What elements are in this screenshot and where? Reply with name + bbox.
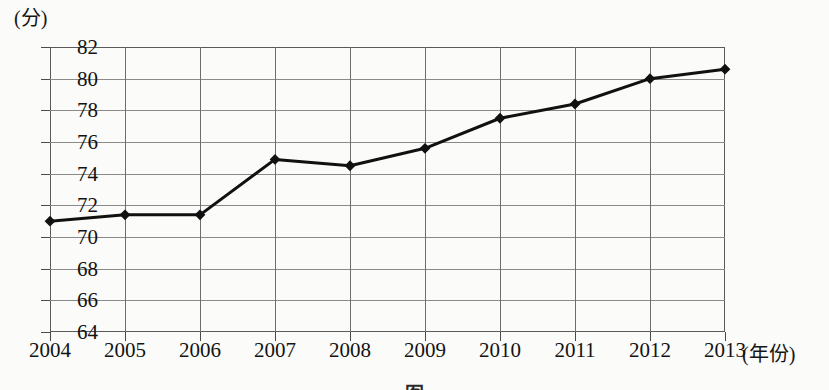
chart-figure: (分) 82807876747270686664 200420052006200…: [0, 0, 829, 390]
y-tick-label: 80: [77, 66, 98, 91]
series-line: [50, 69, 725, 221]
data-point-marker: [570, 99, 581, 110]
y-tick-label: 70: [77, 225, 98, 250]
x-tick-mark: [350, 332, 351, 341]
x-tick-label: 2009: [404, 338, 446, 363]
data-point-marker: [120, 209, 131, 220]
x-tick-label: 2005: [104, 338, 146, 363]
y-tick-mark: [41, 110, 50, 111]
line-series: [50, 47, 725, 332]
y-tick-label: 74: [77, 161, 98, 186]
figure-caption: 图: [0, 379, 829, 390]
y-tick-mark: [41, 269, 50, 270]
x-tick-mark: [275, 332, 276, 341]
y-tick-mark: [41, 237, 50, 238]
x-tick-label: 2013: [704, 338, 746, 363]
y-tick-label: 78: [77, 98, 98, 123]
y-tick-label: 76: [77, 130, 98, 155]
y-tick-label: 82: [77, 35, 98, 60]
x-tick-label: 2007: [254, 338, 296, 363]
x-tick-mark: [200, 332, 201, 341]
data-point-marker: [720, 64, 731, 75]
data-point-marker: [420, 143, 431, 154]
y-tick-label: 64: [77, 320, 98, 345]
y-tick-mark: [41, 300, 50, 301]
x-tick-mark: [50, 332, 51, 341]
x-axis-unit-label: (年份): [742, 338, 795, 367]
y-tick-label: 66: [77, 288, 98, 313]
x-tick-mark: [500, 332, 501, 341]
x-tick-label: 2012: [629, 338, 671, 363]
x-tick-mark: [425, 332, 426, 341]
y-axis-unit-label: (分): [14, 2, 47, 31]
data-point-marker: [345, 160, 356, 171]
y-tick-label: 72: [77, 193, 98, 218]
x-tick-mark: [725, 332, 726, 341]
y-tick-mark: [41, 205, 50, 206]
data-point-marker: [45, 216, 56, 227]
data-point-marker: [495, 113, 506, 124]
data-point-marker: [645, 73, 656, 84]
x-tick-label: 2006: [179, 338, 221, 363]
plot-area: [50, 47, 725, 332]
x-tick-label: 2008: [329, 338, 371, 363]
x-tick-mark: [650, 332, 651, 341]
x-tick-mark: [575, 332, 576, 341]
x-tick-label: 2010: [479, 338, 521, 363]
y-tick-mark: [41, 47, 50, 48]
y-tick-label: 68: [77, 256, 98, 281]
y-tick-mark: [41, 332, 50, 333]
y-tick-mark: [41, 174, 50, 175]
x-tick-label: 2011: [554, 338, 595, 363]
x-tick-mark: [125, 332, 126, 341]
y-tick-mark: [41, 79, 50, 80]
y-tick-mark: [41, 142, 50, 143]
x-tick-label: 2004: [29, 338, 71, 363]
